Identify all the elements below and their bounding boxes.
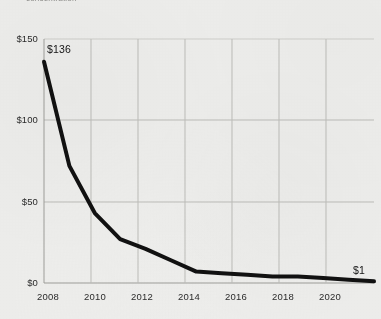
chart-container: concentration $150 $100 $50 $0 2 — [0, 0, 381, 319]
x-tick-label-2018: 2018 — [272, 291, 294, 302]
annotation-start-value: $136 — [47, 43, 71, 55]
x-tick-label-2014: 2014 — [178, 291, 200, 302]
line-chart-svg: $150 $100 $50 $0 2008 2010 2012 2014 201… — [0, 0, 381, 319]
y-tick-label-150: $150 — [16, 33, 38, 44]
y-tick-label-50: $50 — [22, 196, 38, 207]
y-tick-label-100: $100 — [16, 114, 38, 125]
x-tick-label-2012: 2012 — [131, 291, 153, 302]
y-axis-labels: $150 $100 $50 $0 — [16, 33, 38, 288]
y-tick-label-0: $0 — [27, 277, 38, 288]
annotation-end-value: $1 — [353, 264, 365, 276]
x-axis-labels: 2008 2010 2012 2014 2016 2018 2020 — [37, 291, 341, 302]
gridlines-horizontal — [44, 39, 374, 283]
data-series-line — [44, 62, 374, 282]
x-tick-label-2020: 2020 — [319, 291, 341, 302]
x-tick-label-2008: 2008 — [37, 291, 59, 302]
x-tick-label-2010: 2010 — [84, 291, 106, 302]
gridlines-vertical — [44, 39, 326, 283]
x-tick-label-2016: 2016 — [225, 291, 247, 302]
